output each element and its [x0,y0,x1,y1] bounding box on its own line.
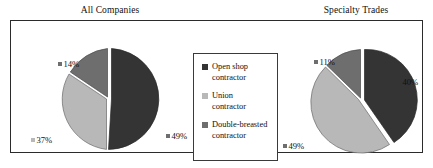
pct-label-double-breasted-specialty-trades: 11% [314,57,335,67]
legend: Open shop contractor Union contractor Do… [193,53,278,161]
pct-marker-double-breasted-icon [314,60,318,64]
pct-marker-union-icon [283,144,287,148]
pct-marker-union-icon [31,138,35,142]
legend-swatch-open-shop-icon [202,64,208,70]
pct-label-open-shop-specialty-trades: 40% [397,77,418,87]
legend-item-open-shop[interactable]: Open shop contractor [202,62,277,83]
plot-frame: 14% 37% 49% 11% 49% 40% Open [10,20,423,153]
pct-marker-double-breasted-icon [58,62,62,66]
legend-label-line2: contractor [212,73,248,84]
pct-marker-open-shop-icon [166,134,170,138]
legend-item-double-breasted[interactable]: Double-breasted contractor [202,120,277,141]
legend-label-union: Union contractor [212,91,246,112]
legend-label-line2: contractor [212,131,267,142]
figure: All Companies Specialty Trades [0,0,433,168]
pct-label-union-all-companies: 37% [31,135,52,145]
pct-value: 11% [320,57,335,67]
pct-label-open-shop-all-companies: 49% [166,131,187,141]
legend-label-open-shop: Open shop contractor [212,62,248,83]
pct-value: 14% [64,59,80,69]
legend-item-union[interactable]: Union contractor [202,91,277,112]
legend-label-double-breasted: Double-breasted contractor [212,120,267,141]
pct-value: 49% [172,131,188,141]
pct-label-union-specialty-trades: 49% [283,141,304,151]
legend-swatch-union-icon [202,93,208,99]
legend-label-line2: contractor [212,102,246,113]
pct-value: 37% [37,135,53,145]
chart-title-all-companies: All Companies [52,5,168,15]
legend-label-line1: Open shop [212,62,248,71]
pie-slice-open-shop-left[interactable] [109,49,159,150]
legend-swatch-double-breasted-icon [202,122,208,128]
legend-label-line1: Double-breasted [212,120,267,129]
pct-marker-open-shop-icon [397,80,401,84]
pct-label-double-breasted-all-companies: 14% [58,59,79,69]
legend-label-line1: Union [212,91,233,100]
pct-value: 49% [289,141,305,151]
pct-value: 40% [403,77,419,87]
chart-title-specialty-trades: Specialty Trades [298,5,414,15]
